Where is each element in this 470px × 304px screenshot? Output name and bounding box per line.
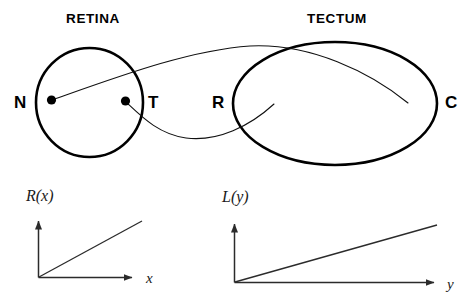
plot-left-Rx: R(x) x bbox=[25, 187, 153, 286]
plot-right-Ly: L(y) y bbox=[221, 188, 454, 292]
tectum-heading: TECTUM bbox=[307, 11, 367, 26]
plot-left-data-line bbox=[39, 221, 142, 277]
plot-right-data-line bbox=[235, 225, 437, 282]
plot-right-y-label: y bbox=[445, 276, 454, 292]
label-nasal: N bbox=[14, 93, 26, 112]
nasal-to-caudal-axon bbox=[52, 46, 408, 103]
label-temporal: T bbox=[148, 93, 159, 112]
figure-canvas: RETINA TECTUM N T R C R(x) x L(y) bbox=[0, 0, 470, 304]
temporal-cell-dot bbox=[121, 96, 130, 105]
nasal-cell-dot bbox=[47, 95, 56, 104]
label-caudal: C bbox=[445, 93, 457, 112]
retina-heading: RETINA bbox=[66, 11, 120, 26]
plot-left-function-label: R(x) bbox=[25, 187, 54, 205]
retinotectal-projection-figure: RETINA TECTUM N T R C R(x) x L(y) bbox=[0, 0, 470, 304]
label-rostral: R bbox=[212, 93, 224, 112]
plot-left-x-label: x bbox=[145, 270, 153, 286]
plot-right-function-label: L(y) bbox=[221, 188, 249, 206]
